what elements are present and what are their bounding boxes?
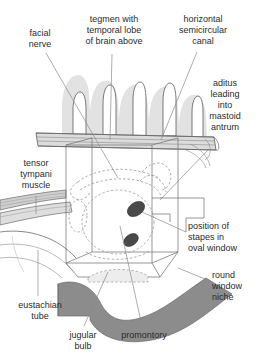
stapes-oval: [124, 198, 147, 220]
label-facial-nerve: facial nerve: [10, 28, 70, 50]
label-stapes-oval-window: position of stapes in oval window: [188, 221, 258, 254]
leader-stapes: [142, 212, 186, 232]
promontory-dome: [69, 190, 154, 259]
tympanic-cavity-box: [66, 138, 178, 277]
label-jugular-bulb: jugular bulb: [59, 330, 107, 352]
leader-round-window: [178, 268, 210, 281]
label-tensor-tympani-muscle: tensor tympani muscle: [8, 158, 64, 191]
label-promontory: promontory: [112, 330, 176, 341]
semicircular-canal: [71, 163, 171, 200]
label-eustachian-tube: eustachian tube: [8, 300, 72, 322]
label-tegmen: tegmen with temporal lobe of brain above: [76, 14, 152, 47]
mastoid-air-cells: [62, 75, 207, 138]
label-aditus-mastoid-antrum: aditus leading into mastoid antrum: [196, 78, 254, 133]
label-horizontal-semicircular-canal: horizontal semicircular canal: [167, 14, 239, 47]
label-round-window-niche: round window niche: [212, 270, 258, 303]
diagram-root: facial nerve tegmen with temporal lobe o…: [0, 0, 259, 364]
leader-aditus: [160, 150, 208, 200]
